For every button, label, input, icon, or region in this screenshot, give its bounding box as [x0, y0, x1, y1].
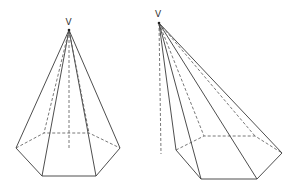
left-edge-va — [16, 30, 69, 148]
left-apex-label: V — [66, 17, 73, 27]
right-hidden-edge-vf — [159, 23, 255, 136]
right-apex-label: V — [155, 9, 162, 19]
right-edge-va — [159, 23, 176, 150]
left-hidden-edge-ve — [44, 30, 69, 133]
pyramids-diagram: V V — [0, 0, 293, 188]
right-pyramid: V — [155, 9, 282, 179]
right-hidden-edge-ve — [159, 23, 204, 136]
right-height-axis — [159, 23, 161, 154]
left-apex-point — [68, 29, 71, 32]
left-edge-vd — [69, 30, 120, 148]
left-hidden-edge-vf — [69, 30, 89, 133]
right-edge-vb — [159, 23, 201, 179]
left-edge-vb — [42, 30, 69, 176]
left-base-back-edges — [16, 133, 120, 148]
right-edge-vc — [159, 23, 257, 179]
left-pyramid: V — [16, 17, 120, 176]
right-base-front-edges — [176, 150, 282, 179]
left-base-front-edges — [16, 148, 120, 176]
right-apex-point — [158, 22, 161, 25]
right-edge-vd — [159, 23, 282, 153]
